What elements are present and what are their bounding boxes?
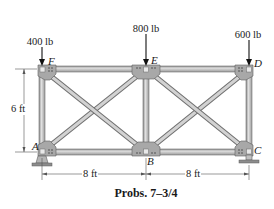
height-dimension-label: 6 ft	[10, 104, 26, 115]
load-arrows	[39, 34, 252, 66]
joint-label-B: B	[147, 156, 154, 167]
load-label-E: 800 lb	[133, 24, 160, 35]
member-BE	[143, 69, 149, 152]
load-label-F: 400 lb	[27, 37, 54, 48]
vertical-members	[39, 69, 252, 152]
member-AF	[39, 69, 45, 152]
joint-label-C: C	[254, 145, 261, 156]
span-right-dimension-label: 8 ft	[185, 169, 201, 180]
joint-label-A: A	[32, 141, 39, 152]
load-label-D: 600 lb	[235, 30, 262, 41]
joint-label-F: F	[48, 56, 55, 67]
truss-figure: 400 lb 800 lb 600 lb F E D A B C 6 ft 8 …	[0, 0, 274, 209]
joint-label-D: D	[254, 58, 262, 69]
joint-label-E: E	[151, 55, 158, 66]
figure-caption: Probs. 7–3/4	[114, 187, 177, 199]
member-CD	[246, 69, 252, 152]
span-left-dimension-label: 8 ft	[82, 169, 98, 180]
